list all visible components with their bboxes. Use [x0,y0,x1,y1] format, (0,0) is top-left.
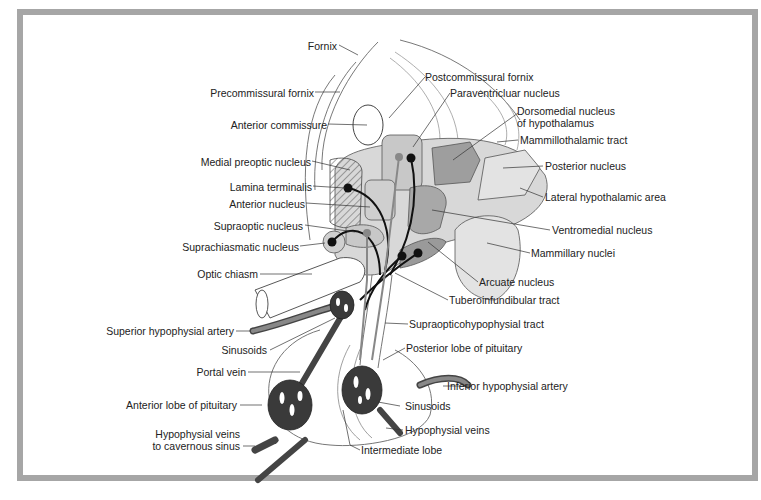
label-postcommissural-fornix: Postcommissural fornix [425,71,534,83]
label-paraventricular-nucleus: Paraventricluar nucleus [450,87,560,99]
label-lamina-terminalis: Lamina terminalis [230,181,312,193]
label-intermediate-lobe: Intermediate lobe [361,444,442,456]
label-supraoptic-nucleus: Supraoptic nucleus [214,220,303,232]
label-anterior-nucleus: Anterior nucleus [229,198,305,210]
label-superior-hypophysial-artery: Superior hypophysial artery [106,325,234,337]
label-fornix: Fornix [308,40,337,52]
label-lateral-hypothalamic-area: Lateral hypothalamic area [545,191,666,203]
label-posterior-lobe: Posterior lobe of pituitary [406,342,522,354]
label-sinusoids-posterior: Sinusoids [405,400,451,412]
label-sinusoids-anterior: Sinusoids [221,344,267,356]
label-mammillary-nuclei: Mammillary nuclei [531,247,615,259]
label-supraopticohypophysial-tract: Supraopticohypophysial tract [409,318,544,330]
label-ventromedial-nucleus: Ventromedial nucleus [552,224,652,236]
label-precommissural-fornix: Precommissural fornix [210,87,314,99]
label-hypophysial-veins: Hypophysial veins [405,424,490,436]
label-suprachiasmatic-nucleus: Suprachiasmatic nucleus [182,241,299,253]
label-dorsomedial-nucleus: Dorsomedial nucleus of hypothalamus [517,105,615,129]
label-anterior-lobe: Anterior lobe of pituitary [126,399,237,411]
label-tuberoinfundibular-tract: Tuberoinfundibular tract [449,294,560,306]
label-arcuate-nucleus: Arcuate nucleus [479,276,554,288]
label-portal-vein: Portal vein [196,366,246,378]
label-hypophysial-veins-cavernous: Hypophysial veins to cavernous sinus [152,428,240,452]
label-posterior-nucleus: Posterior nucleus [545,160,626,172]
label-anterior-commissure: Anterior commissure [231,119,327,131]
anatomy-illustration [0,0,761,500]
label-optic-chiasm: Optic chiasm [197,268,258,280]
label-inferior-hypophysial-artery: Inferior hypophysial artery [447,380,568,392]
label-medial-preoptic-nucleus: Medial preoptic nucleus [201,156,311,168]
label-mammillothalamic-tract: Mammillothalamic tract [520,134,627,146]
